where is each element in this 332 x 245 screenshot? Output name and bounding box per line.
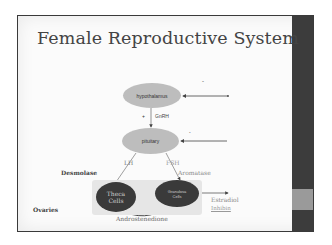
granulosa-label-line2: Cells [168,194,186,199]
theca-label-line2: Cells [107,197,125,204]
gnrh-label: GnRH [155,113,169,119]
inhibin-label: Inhibin [211,205,231,211]
theca-label-line1: Theca [107,190,125,197]
estradiol-label: Estradiol [211,196,239,203]
ovaries-label: Ovaries [33,206,58,213]
granulosa-label-line1: Granulosa [168,189,186,194]
slide: Female Reproductive System hypothalamus … [17,15,314,232]
lh-label: LH [124,159,133,166]
desmolase-label: Desmolase [61,169,97,176]
hypothalamus-node: hypothalamus [123,83,181,108]
androstenedione-label: Androstenedione [116,215,168,222]
hypothalamus-feedback-sign: - [202,78,204,84]
gnrh-sign: + [142,113,145,119]
pituitary-feedback-sign: - [189,129,191,135]
theca-cells-node: Theca Cells [96,182,136,212]
fsh-label: FSH [166,159,180,166]
pituitary-node: pituitary [122,128,179,154]
aromatase-label: Aromatase [178,169,211,176]
granulosa-cells-node: Granulosa Cells [155,180,199,207]
